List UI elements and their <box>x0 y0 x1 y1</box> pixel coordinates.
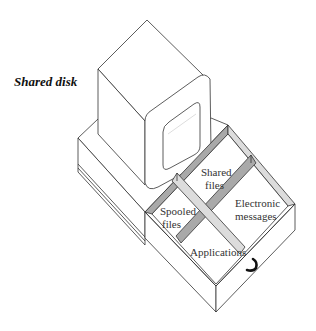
label-applications: Applications <box>190 246 246 258</box>
shared-disk-diagram: Shared disk <box>0 0 316 331</box>
computer-illustration: Shared files Spooled files Electronic me… <box>0 0 316 331</box>
label-electronic-messages: Electronic messages <box>235 197 283 222</box>
